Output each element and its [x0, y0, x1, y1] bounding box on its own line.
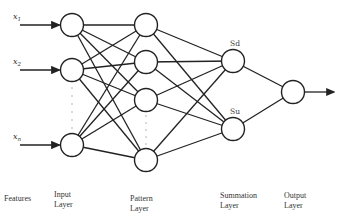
ellipsis-dot — [145, 115, 146, 116]
node-labels: x1x2xnSdSu — [13, 12, 240, 142]
feature-label-x1: x1 — [13, 12, 21, 22]
pattern-node — [135, 14, 158, 37]
edge-input-pattern — [72, 25, 146, 160]
summation-label-su: Su — [230, 107, 240, 116]
feature-label-xn: xn — [13, 132, 22, 142]
feature-label-x2: x2 — [13, 57, 22, 67]
label-input-layer: Input Layer — [54, 190, 73, 210]
summation-node — [222, 118, 245, 141]
ellipsis-dot — [145, 136, 146, 137]
edge-pattern-summation — [146, 61, 233, 100]
label-pattern-layer: Pattern Layer — [130, 194, 153, 214]
ellipsis-dot — [71, 127, 72, 128]
ellipsis-dot — [71, 111, 72, 112]
summation-label-sd: Sd — [230, 39, 240, 48]
output-node — [282, 81, 305, 104]
summation-node — [222, 50, 245, 73]
pattern-node — [135, 89, 158, 112]
input-node — [61, 59, 84, 82]
ellipsis-dot — [71, 119, 72, 120]
label-summation-layer: Summation Layer — [220, 191, 257, 211]
edge-pattern-summation — [146, 100, 233, 129]
edge-pattern-summation — [146, 25, 233, 61]
edge-pattern-summation — [146, 62, 233, 129]
ellipsis-dot — [145, 122, 146, 123]
edge-pattern-summation — [146, 25, 233, 129]
edge-input-pattern — [72, 100, 146, 145]
ellipsis-dot — [145, 143, 146, 144]
edge-pattern-summation — [146, 61, 233, 62]
pattern-node — [135, 149, 158, 172]
ellipsis-dot — [71, 87, 72, 88]
label-output-layer: Output Layer — [284, 191, 306, 211]
pattern-node — [135, 51, 158, 74]
ellipsis-dot — [71, 103, 72, 104]
input-node — [61, 14, 84, 37]
network-diagram: x1x2xnSdSu — [0, 0, 346, 222]
label-features: Features — [4, 194, 31, 204]
ellipsis-dot — [145, 129, 146, 130]
ellipsis-dot — [71, 95, 72, 96]
input-node — [61, 134, 84, 157]
